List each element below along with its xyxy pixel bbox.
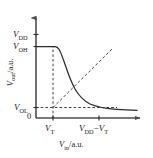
plot-canvas bbox=[0, 0, 153, 158]
transfer-characteristic-curve bbox=[36, 47, 137, 111]
x-tick-label-vdd-minus-vt: VDD−VT bbox=[79, 124, 108, 133]
x-tick-label-vt: VT bbox=[45, 124, 54, 133]
y-tick-label-voh: VOH bbox=[13, 42, 28, 51]
y-tick-label-vol: VOL bbox=[14, 103, 28, 112]
y-tick-label-vdd: VDD bbox=[13, 30, 28, 39]
y-axis-title: Vout/a.u. bbox=[6, 44, 15, 100]
inverter-transfer-characteristic-figure: VDD VOH VOL 0 VT VDD−VT Vin/a.u. Vout/a.… bbox=[0, 0, 153, 158]
x-axis-title: Vin/a.u. bbox=[59, 140, 84, 149]
origin-label: 0 bbox=[27, 112, 31, 121]
